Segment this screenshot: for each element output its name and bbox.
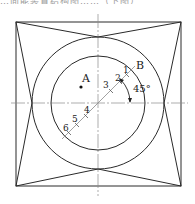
angle-arrow-bottom <box>128 98 132 103</box>
engineering-diagram: A B 1 2 3 4 5 6 45° <box>0 0 195 204</box>
mark-4: 4 <box>84 105 90 115</box>
point-a-dot <box>79 85 82 88</box>
outer-square <box>16 22 181 186</box>
mark-6: 6 <box>63 123 69 133</box>
mark-3: 3 <box>103 80 109 90</box>
corner-star <box>16 22 181 186</box>
angle-label: 45° <box>133 83 151 94</box>
mark-2: 2 <box>115 73 121 83</box>
diagonal-line <box>62 66 135 139</box>
point-b-label: B <box>136 59 144 72</box>
mark-1: 1 <box>123 65 129 75</box>
mark-5: 5 <box>72 114 78 124</box>
point-a-label: A <box>81 72 91 85</box>
